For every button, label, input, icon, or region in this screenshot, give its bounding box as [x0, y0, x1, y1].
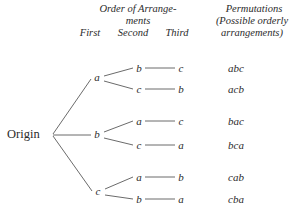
permutation-cba: cba	[214, 194, 258, 205]
node-level3-abc: c	[175, 63, 187, 74]
node-level3-cba: a	[175, 194, 187, 205]
edge-a-to-b	[104, 68, 133, 76]
node-level1-a: a	[91, 72, 103, 83]
edge-a-to-c	[104, 81, 133, 89]
node-level2-ba: a	[133, 116, 145, 127]
permutation-bca: bca	[214, 140, 258, 151]
edge-origin-to-c	[53, 136, 92, 191]
edge-c-to-a	[105, 177, 133, 189]
permutation-acb: acb	[214, 84, 258, 95]
permutation-abc: abc	[214, 63, 258, 74]
node-level2-bc: c	[133, 140, 145, 151]
node-level2-ca: a	[133, 172, 145, 183]
node-level3-acb: b	[175, 84, 187, 95]
node-level3-cab: b	[175, 172, 187, 183]
tree-branch-lines	[0, 0, 305, 219]
node-level2-ab: b	[133, 63, 145, 74]
edge-b-to-a	[104, 121, 133, 132]
edge-c-to-b	[105, 195, 133, 199]
node-level3-bac: c	[175, 116, 187, 127]
node-level1-b: b	[91, 129, 103, 140]
node-level1-c: c	[92, 186, 104, 197]
permutation-cab: cab	[214, 172, 258, 183]
node-level3-bca: a	[175, 140, 187, 151]
node-level2-ac: c	[133, 84, 145, 95]
node-level2-cb: b	[133, 194, 145, 205]
permutation-tree-figure: Order of Arrange- ments First Second Thi…	[0, 0, 305, 219]
origin-label: Origin	[7, 128, 40, 141]
edge-b-to-c	[104, 138, 133, 145]
permutation-bac: bac	[214, 116, 258, 127]
edge-origin-to-a	[53, 79, 91, 134]
